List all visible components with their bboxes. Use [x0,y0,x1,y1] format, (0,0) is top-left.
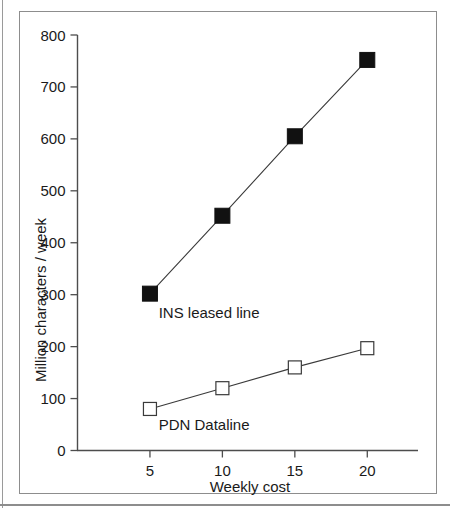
figure-page: 0100200300400500600700800 5101520 INS le… [0,0,450,508]
line-chart: 0100200300400500600700800 5101520 INS le… [0,0,450,508]
y-tick-label: 500 [40,182,65,199]
series-annotation-1: PDN Dataline [159,416,250,433]
data-point-marker [287,129,302,144]
y-tick-label: 600 [40,130,65,147]
y-axis-ticks [71,35,78,451]
data-point-marker [360,52,375,67]
y-tick-label: 800 [40,27,65,44]
y-tick-label: 100 [40,390,65,407]
series-line-0 [150,60,367,294]
data-point-marker [216,382,229,395]
axes-group [77,35,418,451]
x-tick-label: 10 [214,462,231,479]
x-axis-tick-labels: 5101520 [146,462,376,479]
x-tick-label: 15 [286,462,303,479]
y-axis-title: Million characters / week [32,217,49,382]
series-annotation-0: INS leased line [159,304,260,321]
data-point-marker [288,361,301,374]
data-point-marker [215,208,230,223]
series-line-1 [150,348,367,409]
x-tick-label: 20 [359,462,376,479]
y-tick-label: 0 [57,442,65,459]
series-annotations: INS leased linePDN Dataline [159,304,260,433]
data-point-marker [142,286,157,301]
y-tick-label: 700 [40,78,65,95]
data-point-marker [143,402,156,415]
series-group [142,52,374,415]
x-axis-ticks [150,451,367,458]
x-axis-title: Weekly cost [210,478,291,495]
x-tick-label: 5 [146,462,154,479]
data-point-marker [361,342,374,355]
